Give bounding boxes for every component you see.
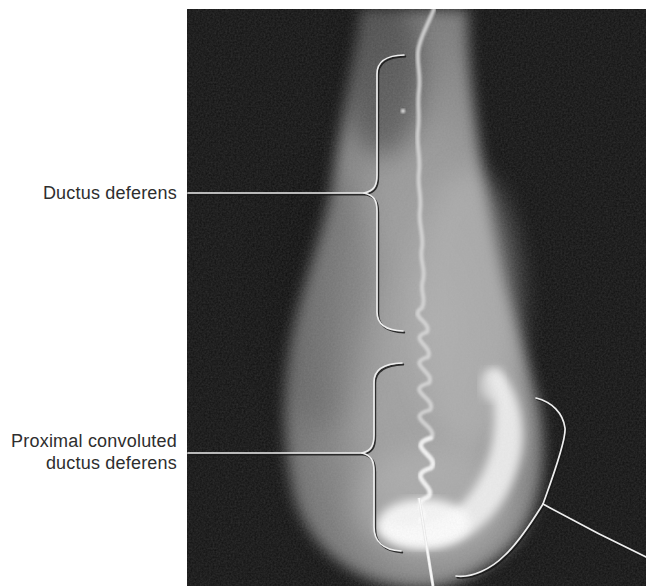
figure: Ductus deferens Proximal convoluted duct… (0, 0, 646, 586)
label-ductus-deferens-text: Ductus deferens (43, 183, 177, 203)
label-ductus-deferens: Ductus deferens (43, 182, 177, 204)
photo-grain (187, 9, 646, 586)
figure-canvas (0, 0, 646, 586)
label-proximal-convoluted-line1: Proximal convoluted (11, 430, 177, 452)
label-proximal-convoluted-line2: ductus deferens (11, 452, 177, 474)
label-proximal-convoluted-ductus-deferens: Proximal convoluted ductus deferens (11, 430, 177, 474)
